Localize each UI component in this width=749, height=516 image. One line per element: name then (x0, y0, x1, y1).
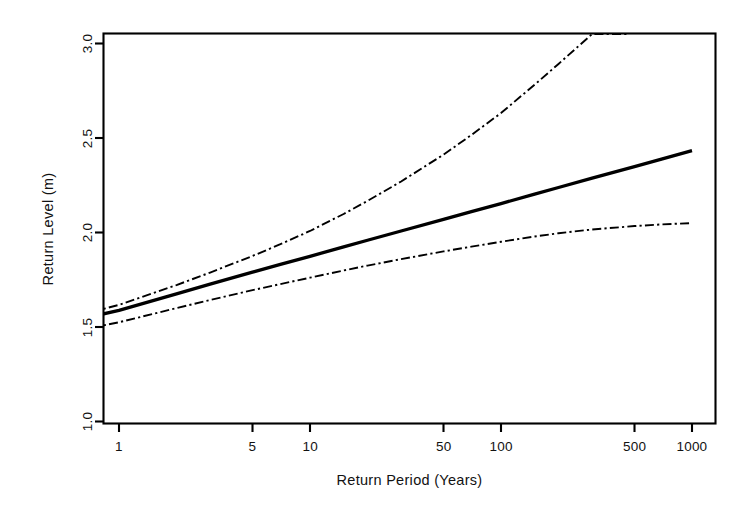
x-tick-label-50: 50 (436, 439, 451, 454)
x-tick-label-1: 1 (115, 439, 123, 454)
x-tick-label-1000: 1000 (677, 439, 708, 454)
y-tick-label-3.0: 3.0 (80, 34, 95, 53)
y-axis-ticks (95, 44, 104, 422)
x-tick-label-10: 10 (303, 439, 318, 454)
y-tick-label-2.0: 2.0 (80, 223, 95, 242)
x-tick-label-5: 5 (249, 439, 257, 454)
return-level-line (92, 151, 692, 317)
upper-confidence-line (92, 34, 629, 312)
x-axis-title: Return Period (Years) (337, 472, 483, 488)
y-tick-label-1.0: 1.0 (80, 412, 95, 431)
y-tick-label-1.5: 1.5 (80, 317, 95, 336)
figure-canvas: 1510501005001000 1.01.52.02.53.0 Return … (0, 0, 749, 516)
lower-confidence-line (92, 223, 692, 328)
x-axis-ticks (119, 424, 692, 433)
y-axis-title: Return Level (m) (40, 172, 56, 285)
x-tick-label-500: 500 (623, 439, 646, 454)
y-tick-label-2.5: 2.5 (80, 128, 95, 147)
x-tick-label-100: 100 (490, 439, 513, 454)
